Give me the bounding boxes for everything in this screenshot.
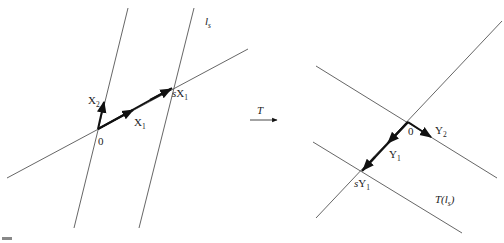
line-t-ls (313, 142, 462, 233)
label-x2: X2 (88, 94, 100, 109)
label-sx1: sX1 (172, 87, 188, 102)
right-panel: 0 Y2 Y1 sY1 T(ls) (313, 21, 502, 233)
label-origin-left: 0 (98, 135, 104, 147)
line-ls (139, 8, 194, 228)
label-y1: Y1 (389, 148, 401, 163)
map-arrow: T (250, 104, 277, 120)
corner-mark (2, 237, 12, 240)
label-sy1: sY1 (354, 177, 370, 192)
line-span-y1 (316, 21, 502, 218)
left-panel: ls X2 X1 sX1 0 (7, 8, 248, 228)
label-t: T (257, 104, 264, 116)
label-x1: X1 (134, 116, 146, 131)
label-ls: ls (205, 15, 211, 30)
label-t-ls: T(ls) (435, 193, 455, 208)
vector-x1-arrow-end (150, 89, 171, 100)
label-origin-right: 0 (408, 125, 414, 137)
vector-x1-arrow (98, 110, 133, 129)
linear-map-diagram: ls X2 X1 sX1 0 T 0 Y2 Y1 sY1 T(ls) (0, 0, 504, 243)
vector-y1-arrow (388, 122, 408, 143)
vector-y1-arrow-end (363, 157, 375, 170)
label-y2: Y2 (435, 124, 447, 139)
